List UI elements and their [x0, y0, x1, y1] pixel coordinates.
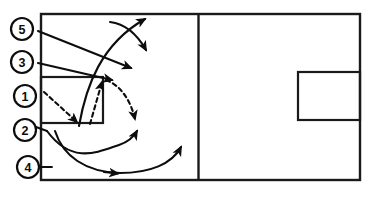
route-player-5: [38, 31, 131, 68]
route-big-arc-down: [110, 22, 146, 50]
player-marker-5[interactable]: 5: [11, 18, 33, 40]
route-player-4-midpoint: [104, 172, 118, 174]
route-key-corner-pass: [106, 80, 135, 119]
player-label-5: 5: [19, 23, 26, 37]
full-court-outline: [41, 14, 360, 180]
player-marker-2[interactable]: 2: [14, 119, 36, 141]
play-diagram: 5 3 1 2 4: [0, 0, 371, 198]
player-marker-4[interactable]: 4: [17, 156, 39, 178]
route-into-key-corner: [90, 82, 102, 124]
player-label-1: 1: [22, 90, 29, 104]
player-marker-1[interactable]: 1: [14, 85, 36, 107]
player-label-2: 2: [22, 124, 29, 138]
route-player-1-pass: [44, 92, 77, 122]
player-marker-3[interactable]: 3: [11, 51, 33, 73]
player-label-4: 4: [25, 161, 32, 175]
left-key-rectangle: [41, 77, 103, 123]
player-label-3: 3: [19, 56, 26, 70]
play-diagram-canvas: 5 3 1 2 4: [0, 0, 371, 198]
right-key-rectangle: [298, 72, 360, 120]
